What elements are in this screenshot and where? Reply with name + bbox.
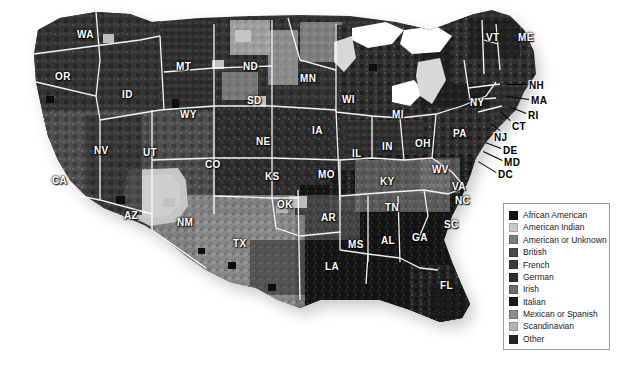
state-label-nv: NV bbox=[94, 146, 109, 156]
legend-swatch-icon bbox=[509, 260, 518, 269]
state-label-dc: DC bbox=[498, 170, 513, 180]
legend-label: Mexican or Spanish bbox=[523, 310, 598, 319]
state-label-nj: NJ bbox=[494, 133, 508, 143]
legend-item[interactable]: British bbox=[509, 246, 609, 258]
state-label-mi: MI bbox=[392, 110, 404, 120]
state-label-id: ID bbox=[122, 90, 133, 100]
legend-swatch-icon bbox=[509, 335, 518, 344]
state-label-mn: MN bbox=[300, 74, 316, 84]
legend-label: Italian bbox=[523, 298, 546, 307]
state-label-wv: WV bbox=[432, 165, 449, 175]
state-label-il: IL bbox=[352, 149, 362, 159]
state-label-de: DE bbox=[503, 146, 518, 156]
legend-item[interactable]: Other bbox=[509, 333, 609, 345]
state-label-me: ME bbox=[518, 33, 534, 43]
state-label-ne: NE bbox=[256, 137, 271, 147]
state-label-mt: MT bbox=[176, 62, 191, 72]
state-label-nh: NH bbox=[529, 81, 544, 91]
legend-swatch-icon bbox=[509, 322, 518, 331]
state-label-in: IN bbox=[382, 142, 393, 152]
state-label-ut: UT bbox=[143, 148, 157, 158]
state-label-md: MD bbox=[504, 158, 520, 168]
legend-panel[interactable]: African AmericanAmerican IndianAmerican … bbox=[503, 203, 610, 350]
state-label-ia: IA bbox=[312, 126, 323, 136]
state-label-mo: MO bbox=[318, 170, 335, 180]
state-label-tx: TX bbox=[233, 239, 247, 249]
state-label-ca: CA bbox=[52, 176, 67, 186]
legend-swatch-icon bbox=[509, 235, 518, 244]
state-label-al: AL bbox=[381, 236, 395, 246]
state-label-wy: WY bbox=[180, 110, 197, 120]
legend-item[interactable]: Scandinavian bbox=[509, 321, 609, 333]
legend-item[interactable]: German bbox=[509, 271, 609, 283]
legend-label: German bbox=[523, 273, 554, 282]
state-label-ar: AR bbox=[321, 213, 336, 223]
state-label-va: VA bbox=[452, 182, 466, 192]
state-label-az: AZ bbox=[124, 211, 138, 221]
legend-swatch-icon bbox=[509, 285, 518, 294]
legend-item[interactable]: Mexican or Spanish bbox=[509, 308, 609, 320]
legend-swatch-icon bbox=[509, 273, 518, 282]
state-label-ma: MA bbox=[531, 96, 547, 106]
state-label-nc: NC bbox=[455, 196, 470, 206]
state-label-ks: KS bbox=[265, 172, 280, 182]
state-label-ky: KY bbox=[380, 177, 395, 187]
legend-swatch-icon bbox=[509, 248, 518, 257]
state-label-sd: SD bbox=[247, 96, 262, 106]
state-label-or: OR bbox=[55, 72, 71, 82]
map-figure: WAORIDMTWYNDSDMNWIMINEIAILINOHPANYVTMENV… bbox=[0, 0, 619, 370]
legend-label: Irish bbox=[523, 285, 539, 294]
state-label-fl: FL bbox=[440, 281, 453, 291]
legend-swatch-icon bbox=[509, 223, 518, 232]
state-label-wi: WI bbox=[342, 95, 355, 105]
legend-item[interactable]: African American bbox=[509, 209, 609, 221]
state-label-co: CO bbox=[205, 160, 221, 170]
legend-item[interactable]: American Indian bbox=[509, 221, 609, 233]
state-label-wa: WA bbox=[77, 30, 94, 40]
legend-item[interactable]: American or Unknown bbox=[509, 234, 609, 246]
state-label-nd: ND bbox=[243, 62, 258, 72]
legend-label: French bbox=[523, 261, 549, 270]
legend-items: African AmericanAmerican IndianAmerican … bbox=[509, 209, 609, 345]
state-label-ms: MS bbox=[348, 240, 364, 250]
state-label-ny: NY bbox=[470, 98, 485, 108]
state-label-oh: OH bbox=[415, 139, 431, 149]
leader-line-0 bbox=[506, 84, 527, 85]
state-label-ga: GA bbox=[412, 233, 428, 243]
legend-item[interactable]: French bbox=[509, 259, 609, 271]
state-label-pa: PA bbox=[453, 129, 467, 139]
legend-label: American or Unknown bbox=[523, 236, 607, 245]
legend-label: Scandinavian bbox=[523, 322, 574, 331]
legend-label: American Indian bbox=[523, 223, 584, 232]
legend-item[interactable]: Italian bbox=[509, 296, 609, 308]
legend-label: African American bbox=[523, 211, 587, 220]
legend-label: British bbox=[523, 248, 547, 257]
state-label-ct: CT bbox=[512, 122, 526, 132]
legend-swatch-icon bbox=[509, 297, 518, 306]
legend-swatch-icon bbox=[509, 211, 518, 220]
state-label-vt: VT bbox=[486, 33, 500, 43]
state-label-ri: RI bbox=[528, 111, 539, 121]
state-label-tn: TN bbox=[385, 203, 399, 213]
state-label-ok: OK bbox=[277, 200, 293, 210]
state-label-nm: NM bbox=[177, 218, 193, 228]
legend-swatch-icon bbox=[509, 310, 518, 319]
state-label-la: LA bbox=[325, 262, 339, 272]
legend-label: Other bbox=[523, 335, 544, 344]
legend-item[interactable]: Irish bbox=[509, 283, 609, 295]
state-label-sc: SC bbox=[444, 220, 459, 230]
